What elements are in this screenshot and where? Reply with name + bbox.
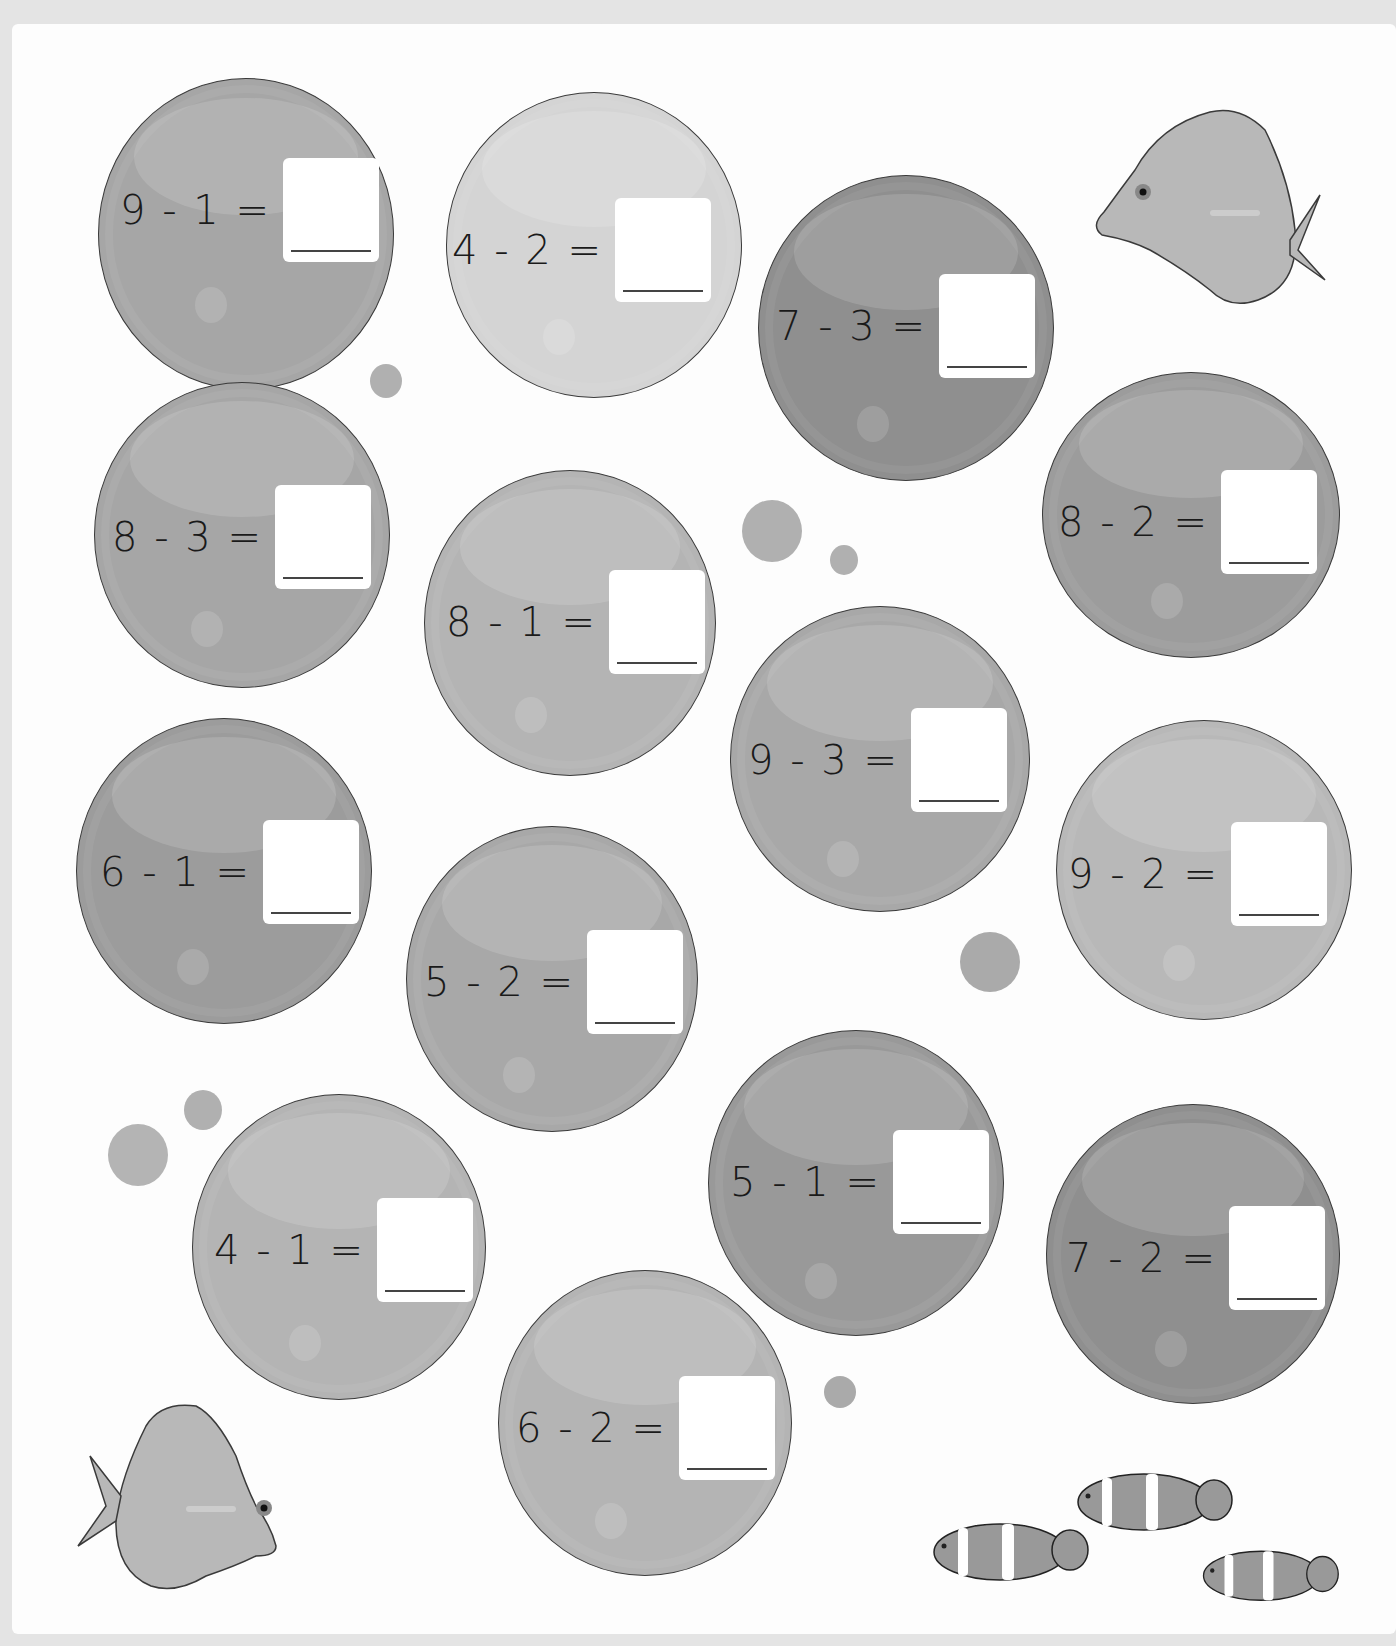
expression: 6 - 1 = xyxy=(100,849,251,895)
expression: 7 - 2 = xyxy=(1066,1235,1217,1281)
expression: 4 - 2 = xyxy=(452,227,603,273)
answer-box-10[interactable] xyxy=(587,930,683,1034)
answer-box-4[interactable] xyxy=(275,485,371,589)
expression: 9 - 1 = xyxy=(120,187,271,233)
equation-4: 8 - 3 = xyxy=(112,485,371,589)
small-bubble xyxy=(830,545,858,575)
expression: 4 - 1 = xyxy=(214,1227,365,1273)
tang-fish-icon xyxy=(76,1396,306,1596)
answer-box-3[interactable] xyxy=(939,274,1035,378)
expression: 7 - 3 = xyxy=(776,303,927,349)
equation-5: 8 - 1 = xyxy=(446,570,705,674)
small-bubble xyxy=(824,1376,856,1408)
small-bubble xyxy=(370,364,402,398)
equation-14: 6 - 2 = xyxy=(516,1376,775,1480)
equation-9: 9 - 2 = xyxy=(1068,822,1327,926)
small-bubble xyxy=(742,500,802,562)
answer-box-8[interactable] xyxy=(263,820,359,924)
answer-box-12[interactable] xyxy=(377,1198,473,1302)
small-bubble xyxy=(108,1124,168,1186)
small-bubble xyxy=(184,1090,222,1130)
answer-box-5[interactable] xyxy=(609,570,705,674)
tang-fish-icon xyxy=(1090,100,1330,320)
expression: 6 - 2 = xyxy=(516,1405,667,1451)
expression: 8 - 2 = xyxy=(1058,499,1209,545)
equation-10: 5 - 2 = xyxy=(424,930,683,1034)
expression: 9 - 3 = xyxy=(748,737,899,783)
equation-7: 9 - 3 = xyxy=(748,708,1007,812)
expression: 9 - 2 = xyxy=(1068,851,1219,897)
answer-box-9[interactable] xyxy=(1231,822,1327,926)
answer-box-11[interactable] xyxy=(893,1130,989,1234)
equation-1: 9 - 1 = xyxy=(120,158,379,262)
equation-12: 4 - 1 = xyxy=(214,1198,473,1302)
answer-box-13[interactable] xyxy=(1229,1206,1325,1310)
answer-box-7[interactable] xyxy=(911,708,1007,812)
equation-6: 8 - 2 = xyxy=(1058,470,1317,574)
small-bubble xyxy=(960,932,1020,992)
clownfish-icon xyxy=(930,1510,1090,1590)
answer-box-14[interactable] xyxy=(679,1376,775,1480)
expression: 8 - 3 = xyxy=(112,514,263,560)
expression: 8 - 1 = xyxy=(446,599,597,645)
equation-2: 4 - 2 = xyxy=(452,198,711,302)
equation-8: 6 - 1 = xyxy=(100,820,359,924)
equation-3: 7 - 3 = xyxy=(776,274,1035,378)
expression: 5 - 1 = xyxy=(730,1159,881,1205)
equation-11: 5 - 1 = xyxy=(730,1130,989,1234)
answer-box-2[interactable] xyxy=(615,198,711,302)
answer-box-1[interactable] xyxy=(283,158,379,262)
equation-13: 7 - 2 = xyxy=(1066,1206,1325,1310)
clownfish-icon xyxy=(1074,1460,1234,1540)
expression: 5 - 2 = xyxy=(424,959,575,1005)
clownfish-icon xyxy=(1200,1538,1340,1610)
answer-box-6[interactable] xyxy=(1221,470,1317,574)
